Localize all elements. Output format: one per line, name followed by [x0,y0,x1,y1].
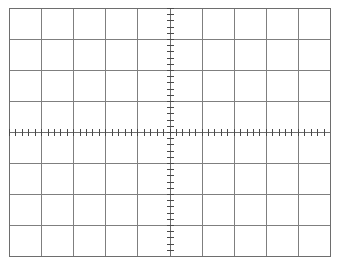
graticule-canvas [0,0,343,271]
oscilloscope-screen [0,0,343,271]
